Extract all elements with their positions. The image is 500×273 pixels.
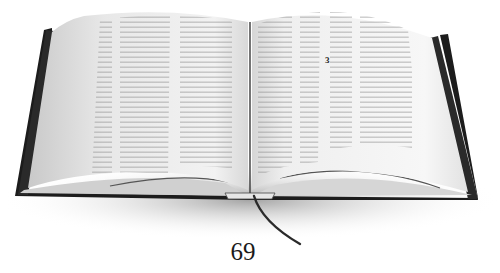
right-page-marker: 3 (325, 55, 330, 65)
spine-foot (225, 193, 275, 199)
page-number: 69 (0, 238, 486, 266)
open-book-illustration: 3 (0, 0, 500, 273)
left-page-text (92, 16, 240, 176)
